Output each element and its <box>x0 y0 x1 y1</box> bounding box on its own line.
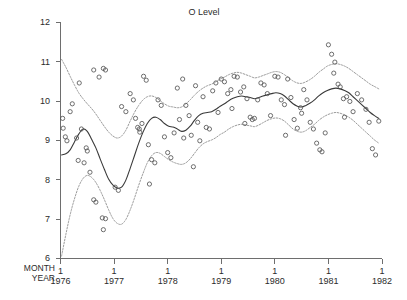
scatter-point <box>201 95 205 99</box>
scatter-point <box>172 131 176 135</box>
fitted-trend-line <box>62 88 379 188</box>
chart-title: O Level <box>188 7 219 17</box>
x-tick-month-label: 1 <box>58 266 63 276</box>
scatter-point <box>97 75 101 79</box>
scatter-point <box>295 126 299 130</box>
scatter-point <box>345 95 349 99</box>
scatter-point <box>348 99 352 103</box>
scatter-point <box>61 116 65 120</box>
scatter-point <box>222 80 226 84</box>
scatter-point <box>193 84 197 88</box>
scatter-point <box>355 91 359 95</box>
y-axis-tick-labels: 6789101112 <box>40 17 50 263</box>
x-tick-month-label: 1 <box>219 266 224 276</box>
scatter-point <box>326 43 330 47</box>
scatter-point <box>131 98 135 102</box>
scatter-point <box>140 121 144 125</box>
scatter-point <box>315 141 319 145</box>
scatter-point <box>128 91 132 95</box>
x-axis-tick-marks <box>61 259 383 265</box>
scatter-point <box>305 98 309 102</box>
scatter-point <box>323 131 327 135</box>
scatter-point <box>177 117 181 121</box>
y-tick-label: 6 <box>45 253 50 263</box>
x-tick-year-label: 1979 <box>211 276 231 286</box>
scatter-point <box>119 104 123 108</box>
scatter-point <box>82 161 86 165</box>
scatter-point <box>181 77 185 81</box>
x-tick-year-label: 1980 <box>265 276 285 286</box>
scatter-point <box>377 119 381 123</box>
scatter-point <box>133 116 137 120</box>
scatter-point <box>169 156 173 160</box>
scatter-point <box>226 91 230 95</box>
scatter-point <box>342 115 346 119</box>
chart-container: O Level 6789101112 1111111 1976197719781… <box>0 0 407 300</box>
scatter-point <box>70 102 74 106</box>
y-tick-label: 8 <box>45 175 50 185</box>
scatter-point <box>141 74 145 78</box>
upper-confidence-band <box>62 59 379 138</box>
y-tick-label: 10 <box>40 96 50 106</box>
scatter-point <box>373 153 377 157</box>
scatter-point <box>189 133 193 137</box>
scatter-point <box>211 89 215 93</box>
scatter-point <box>302 88 306 92</box>
scatter-point <box>182 136 186 140</box>
scatter-point <box>147 182 151 186</box>
o-level-chart: O Level 6789101112 1111111 1976197719781… <box>0 0 407 300</box>
scatter-point <box>61 126 65 130</box>
scatter-point <box>196 120 200 124</box>
scatter-point <box>332 71 336 75</box>
scatter-point <box>146 143 150 147</box>
scatter-point <box>268 114 272 118</box>
scatter-point <box>367 120 371 124</box>
scatter-point <box>282 103 286 107</box>
x-axis-month-labels: 1111111 <box>58 266 385 276</box>
x-tick-year-label: 1978 <box>158 276 178 286</box>
scatter-point <box>153 161 157 165</box>
x-tick-month-label: 1 <box>165 266 170 276</box>
lower-confidence-band <box>62 112 379 256</box>
scatter-point <box>92 68 96 72</box>
scatter-point <box>166 150 170 154</box>
scatter-point <box>144 78 148 82</box>
scatter-point <box>298 106 302 110</box>
scatter-point <box>308 120 312 124</box>
x-tick-month-label: 1 <box>326 266 331 276</box>
y-tick-label: 9 <box>45 135 50 145</box>
scatter-point <box>191 165 195 169</box>
y-tick-label: 7 <box>45 214 50 224</box>
y-tick-label: 11 <box>41 57 50 67</box>
x-tick-month-label: 1 <box>112 266 117 276</box>
scatter-point <box>124 110 128 114</box>
scatter-point <box>229 88 233 92</box>
scatter-point <box>230 106 234 110</box>
scatter-point <box>77 81 81 85</box>
scatter-point <box>162 135 166 139</box>
scatter-point <box>238 90 242 94</box>
x-tick-year-label: 1981 <box>318 276 338 286</box>
scatter-point <box>156 98 160 102</box>
scatter-point <box>101 228 105 232</box>
scatter-point <box>311 127 315 131</box>
scatter-point <box>289 95 293 99</box>
scatter-point <box>65 139 69 143</box>
scatter-point <box>116 188 120 192</box>
scatter-point <box>262 83 266 87</box>
scatter-point <box>242 85 246 89</box>
x-tick-year-label: 1982 <box>372 276 392 286</box>
x-tick-month-label: 1 <box>272 266 277 276</box>
x-tick-year-label: 1977 <box>104 276 124 286</box>
y-axis-tick-marks <box>56 23 61 259</box>
scatter-point <box>283 133 287 137</box>
scatter-point <box>187 114 191 118</box>
scatter-point <box>351 110 355 114</box>
scatter-point <box>88 170 92 174</box>
y-tick-label: 12 <box>40 17 50 27</box>
scatter-point <box>159 103 163 107</box>
scatter-point <box>330 52 334 56</box>
x-axis-year-labels: 1976197719781979198019811982 <box>50 276 392 286</box>
axis-row-label-year: YEAR <box>32 273 55 283</box>
scatter-point <box>68 110 72 114</box>
